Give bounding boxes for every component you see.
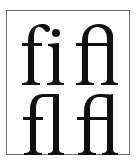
fl-ligature-joined: fl	[73, 93, 121, 155]
fl-glyph-icon	[19, 93, 67, 155]
fi-ligature-joined: fi	[73, 23, 121, 85]
fi-glyph-icon	[73, 23, 121, 85]
fi-glyph-icon	[19, 23, 67, 85]
ligature-frame: fi fi fl	[6, 10, 130, 155]
fl-ligature-standard: fl	[19, 93, 67, 155]
fl-glyph-icon	[73, 93, 121, 155]
fi-ligature-standard: fi	[19, 23, 67, 85]
